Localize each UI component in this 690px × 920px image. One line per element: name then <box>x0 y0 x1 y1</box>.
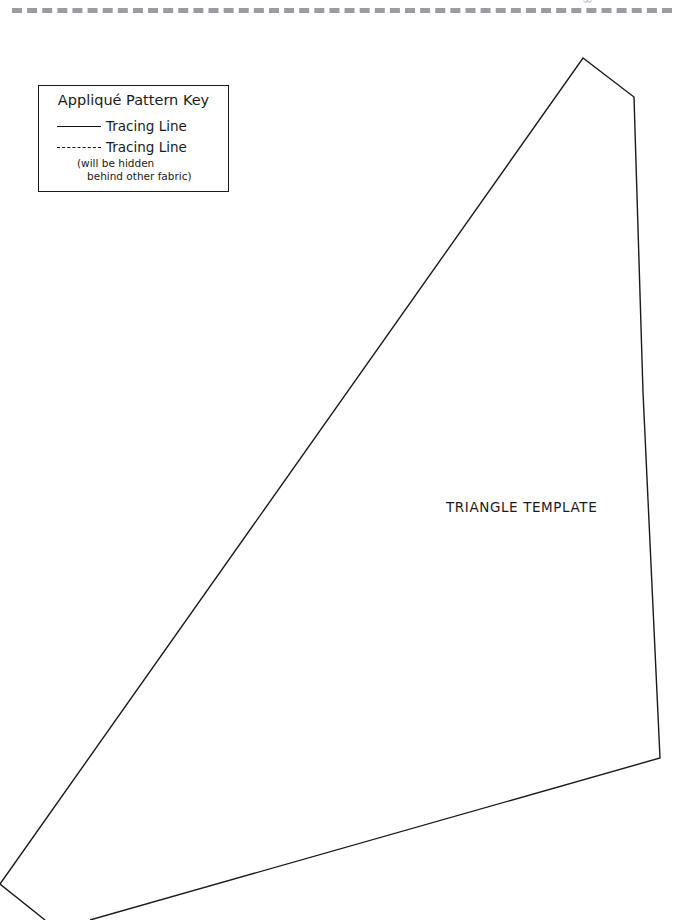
solid-line-swatch-icon <box>57 126 101 127</box>
pattern-sheet: ∞ TRIANGLE TEMPLATE Appliqué Pattern Key… <box>0 0 690 920</box>
dashed-line-swatch-icon <box>57 147 101 148</box>
template-name-label: TRIANGLE TEMPLATE <box>446 499 597 515</box>
key-note-line-1: (will be hidden <box>77 157 154 169</box>
key-entry-solid: Tracing Line <box>39 118 228 136</box>
key-entry-dashed: Tracing Line <box>39 139 228 157</box>
key-title: Appliqué Pattern Key <box>39 92 228 108</box>
key-entry-solid-label: Tracing Line <box>106 118 187 134</box>
key-entry-dashed-label: Tracing Line <box>106 139 187 155</box>
key-note-line-2: behind other fabric) <box>77 170 227 183</box>
triangle-template-left-tail <box>0 884 45 920</box>
key-entry-dashed-note: (will be hidden behind other fabric) <box>77 157 227 182</box>
appliqué-pattern-key: Appliqué Pattern Key Tracing Line Tracin… <box>38 85 229 192</box>
